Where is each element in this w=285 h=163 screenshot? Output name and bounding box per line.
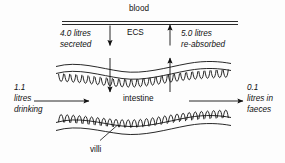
reabsorbed-word-label: re-absorbed [181, 40, 225, 49]
faeces-amount-label: 0.1 [247, 83, 258, 92]
secreted-word-label: secreted [60, 40, 91, 49]
diagram-canvas: blood ECS 4.0 litres secreted 5.0 litres… [0, 0, 285, 163]
villi-label: villi [90, 145, 101, 154]
blood-label: blood [129, 4, 149, 13]
faeces-word-label: faeces [247, 105, 271, 114]
lower-wall-outer-membrane [56, 124, 231, 135]
secreted-amount-label: 4.0 litres [60, 29, 91, 38]
reabsorbed-amount-label: 5.0 litres [181, 29, 212, 38]
lower-wall-villi [59, 110, 229, 128]
ecs-label: ECS [127, 28, 144, 37]
upper-wall-mucosa-baseline [56, 68, 231, 79]
drinking-amount-label: 1.1 [14, 83, 25, 92]
lower-intestinal-wall [56, 110, 231, 134]
intestinal-water-balance-drawing [0, 0, 285, 163]
drinking-unit-label: litres [14, 94, 31, 103]
upper-intestinal-wall [56, 61, 231, 87]
faeces-unit-label: litres in [247, 94, 273, 103]
intestine-label: intestine [123, 94, 154, 103]
upper-wall-outer-membrane [56, 61, 231, 72]
drinking-word-label: drinking [14, 105, 43, 114]
